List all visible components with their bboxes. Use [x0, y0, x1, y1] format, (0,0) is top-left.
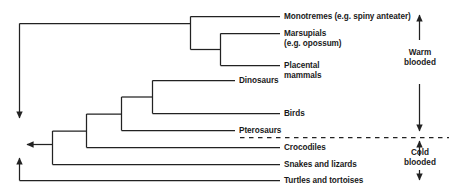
cladogram-canvas [0, 0, 449, 193]
tip-label-marsupials-example: (e.g. opossum) [284, 39, 342, 49]
annotation-warm-blooded-line1: Warm [396, 48, 444, 58]
tip-label-turtles-tortoises: Turtles and tortoises [284, 176, 363, 186]
tip-label-placental-mammals: mammals [284, 71, 321, 81]
tip-label-monotremes: Monotremes (e.g. spiny anteater) [284, 12, 411, 22]
annotation-cold-blooded-line2: blooded [396, 158, 444, 168]
tip-label-dinosaurs: Dinosaurs [239, 76, 279, 86]
tip-label-placental: Placental [284, 61, 320, 71]
annotation-cold-blooded-line1: Cold [396, 148, 444, 158]
tip-label-snakes-lizards: Snakes and lizards [284, 160, 357, 170]
tip-label-crocodiles: Crocodiles [284, 143, 326, 153]
tip-label-birds: Birds [284, 109, 305, 119]
tip-label-pterosaurs: Pterosaurs [239, 126, 281, 136]
annotation-warm-blooded-line2: blooded [396, 58, 444, 68]
tip-label-marsupials: Marsupials [284, 29, 326, 39]
